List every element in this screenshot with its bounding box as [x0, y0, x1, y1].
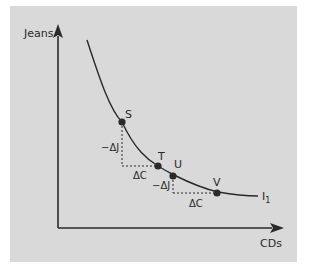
delta-c-label-1: ΔC	[133, 170, 147, 181]
point-v-label: V	[213, 176, 221, 189]
delta-j-label-1: −ΔJ	[101, 142, 119, 153]
point-t	[154, 162, 161, 169]
point-u	[169, 172, 176, 179]
indifference-curve-diagram: Jeans CDs S T U V −ΔJ ΔC −ΔJ ΔC I1	[0, 0, 309, 269]
point-t-label: T	[157, 150, 165, 163]
y-axis-arrow-icon	[53, 24, 63, 38]
delta-c-label-2: ΔC	[189, 198, 203, 209]
point-s-label: S	[125, 108, 132, 121]
x-axis-label: CDs	[260, 237, 282, 250]
point-v	[213, 189, 220, 196]
x-axis-arrow-icon	[270, 223, 284, 233]
point-u-label: U	[174, 158, 182, 171]
curve-label: I1	[262, 190, 270, 205]
delta-j-label-2: −ΔJ	[152, 180, 170, 191]
y-axis-label: Jeans	[23, 27, 54, 40]
